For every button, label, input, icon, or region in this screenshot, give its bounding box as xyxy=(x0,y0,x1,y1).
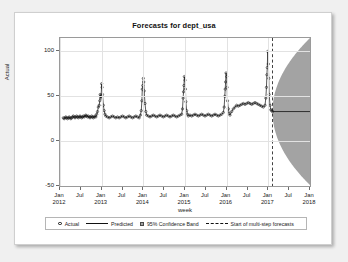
x-tick-mark xyxy=(59,187,60,190)
legend-item-forecast-start[interactable]: Start of multi-step forecasts xyxy=(206,221,294,227)
gridline-vertical xyxy=(185,38,186,186)
gridline-vertical xyxy=(102,38,103,186)
x-tick-mark xyxy=(101,187,102,190)
open-circle-icon xyxy=(58,222,61,225)
x-tick-mark xyxy=(288,187,289,190)
gridline-horizontal xyxy=(60,186,310,187)
x-tick-label: Jan2018 xyxy=(294,192,324,206)
screenshot-root: Forecasts for dept_usa Actual -50050100 … xyxy=(0,0,348,262)
x-tick-mark xyxy=(247,187,248,190)
predicted-line xyxy=(63,51,272,118)
x-tick-mark xyxy=(142,187,143,190)
x-tick-mark xyxy=(163,187,164,190)
legend-label-actual: Actual xyxy=(65,221,79,227)
gridline-vertical xyxy=(310,38,311,186)
legend-item-confidence-band[interactable]: 95% Confidence Band xyxy=(140,221,199,227)
dashed-line-icon xyxy=(206,223,228,224)
x-tick-mark xyxy=(267,187,268,190)
y-tick-label: -50 xyxy=(32,182,54,188)
y-tick-label: 0 xyxy=(32,137,54,143)
filled-square-icon xyxy=(140,222,144,226)
gridline-horizontal xyxy=(60,51,310,52)
x-tick-mark xyxy=(122,187,123,190)
x-tick-mark xyxy=(184,187,185,190)
chart-card: Forecasts for dept_usa Actual -50050100 … xyxy=(14,12,332,245)
gridline-vertical xyxy=(143,38,144,186)
gridline-vertical xyxy=(60,38,61,186)
legend-label-forecast-start: Start of multi-step forecasts xyxy=(231,221,294,227)
chart-title: Forecasts for dept_usa xyxy=(15,21,333,30)
legend-item-actual[interactable]: Actual xyxy=(58,221,79,227)
actual-markers xyxy=(62,50,273,120)
gridline-horizontal xyxy=(60,141,310,142)
y-axis-label: Actual xyxy=(4,64,10,81)
gridline-vertical xyxy=(227,38,228,186)
solid-line-icon xyxy=(86,223,108,224)
y-tick-label: 50 xyxy=(32,92,54,98)
gridline-horizontal xyxy=(60,96,310,97)
gridline-vertical xyxy=(268,38,269,186)
x-tick-mark xyxy=(226,187,227,190)
legend-item-predicted[interactable]: Predicted xyxy=(86,221,133,227)
y-tick-label: 100 xyxy=(32,47,54,53)
x-tick-mark xyxy=(80,187,81,190)
legend-label-confidence-band: 95% Confidence Band xyxy=(147,221,199,227)
x-axis-label: week xyxy=(59,207,311,213)
plot-area xyxy=(59,37,311,187)
x-tick-mark xyxy=(205,187,206,190)
legend-label-predicted: Predicted xyxy=(111,221,133,227)
x-tick-mark xyxy=(309,187,310,190)
chart-legend: Actual Predicted 95% Confidence Band Sta… xyxy=(45,217,307,230)
